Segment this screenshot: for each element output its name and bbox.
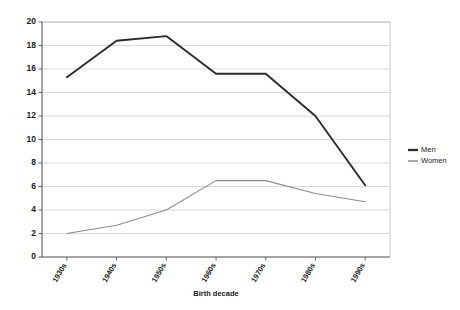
y-tick-label: 18 <box>27 40 37 50</box>
chart-background <box>0 0 460 310</box>
legend-label-men: Men <box>421 145 436 154</box>
legend-label-women: Women <box>421 156 447 165</box>
x-axis-title: Birth decade <box>193 289 238 298</box>
y-tick-label: 6 <box>31 181 36 191</box>
y-tick-label: 2 <box>31 228 36 238</box>
y-tick-label: 20 <box>27 16 37 26</box>
y-tick-label: 0 <box>31 251 36 261</box>
y-tick-label: 10 <box>27 134 37 144</box>
line-chart: 02468101214161820 1930s1940s1950s1960s19… <box>0 0 460 310</box>
y-tick-label: 16 <box>27 63 37 73</box>
y-tick-label: 14 <box>27 87 37 97</box>
chart-canvas: 02468101214161820 1930s1940s1950s1960s19… <box>0 0 460 310</box>
y-tick-label: 4 <box>31 204 36 214</box>
y-tick-label: 12 <box>27 110 37 120</box>
y-tick-label: 8 <box>31 157 36 167</box>
